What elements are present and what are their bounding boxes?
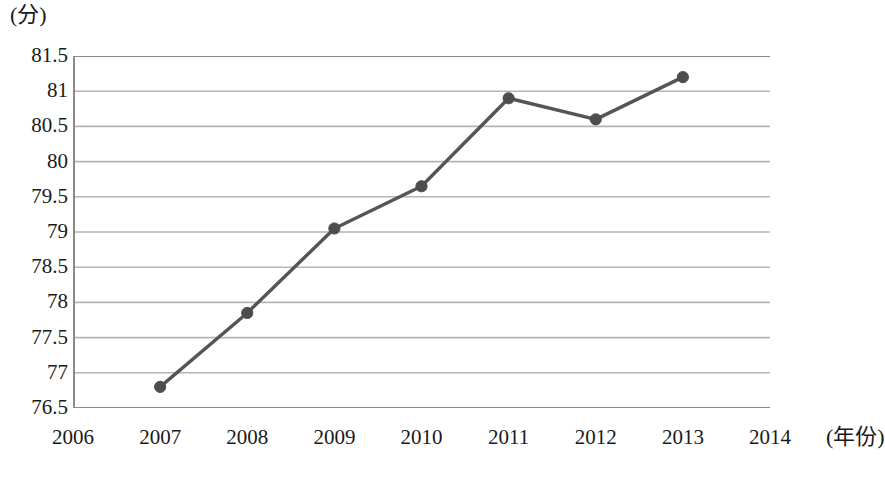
data-point-marker	[242, 307, 253, 318]
data-point-marker	[329, 223, 340, 234]
y-axis-tick-label: 80.5	[2, 115, 68, 136]
y-axis-tick-label: 76.5	[2, 397, 68, 418]
data-point-marker	[155, 381, 166, 392]
y-axis-tick-label: 80	[2, 151, 68, 172]
y-axis-tick-label: 77.5	[2, 327, 68, 348]
x-axis-tick-label: 2014	[715, 424, 825, 450]
y-axis-tick-label: 78	[2, 291, 68, 312]
data-point-marker	[590, 114, 601, 125]
y-axis-tick-label: 79	[2, 221, 68, 242]
y-axis-tick-labels: 81.58180.58079.57978.57877.57776.5	[0, 0, 68, 482]
x-axis-unit-label: (年份)	[826, 424, 885, 450]
y-axis-tick-label: 81.5	[2, 45, 68, 66]
plot-svg	[73, 56, 770, 408]
y-axis-tick-label: 77	[2, 362, 68, 383]
data-point-marker	[416, 181, 427, 192]
data-point-marker	[503, 93, 514, 104]
x-axis-tick-labels: 200620072008200920102011201220132014(年份)	[0, 424, 876, 458]
plot-area	[73, 56, 770, 408]
y-axis-tick-label: 78.5	[2, 256, 68, 277]
y-axis-tick-label: 79.5	[2, 186, 68, 207]
data-point-marker	[677, 72, 688, 83]
y-axis-tick-label: 81	[2, 80, 68, 101]
